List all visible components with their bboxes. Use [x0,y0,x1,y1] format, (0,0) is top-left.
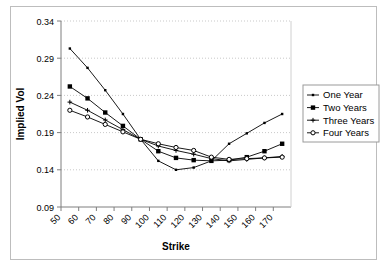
data-point [262,156,266,160]
x-tick-label: 80 [101,212,115,226]
data-point [156,142,160,146]
x-tick-label: 100 [133,212,151,230]
data-point [246,132,248,134]
x-tick-label: 160 [239,212,257,230]
data-point [68,84,72,88]
data-point [104,89,106,91]
data-point [103,110,107,114]
data-point [281,113,283,115]
legend-label: Three Years [323,115,374,126]
data-point [175,169,177,171]
legend-label: Four Years [323,127,369,138]
legend-swatch-marker [312,94,314,96]
x-tick-label: 120 [169,212,187,230]
data-point [228,143,230,145]
data-point [280,142,284,146]
data-point [69,47,71,49]
data-point [121,130,125,134]
data-point [174,145,178,149]
x-tick-label: 150 [222,212,240,230]
y-tick-label: 0.14 [36,165,54,175]
data-point [86,67,88,69]
y-axis-title: Implied Vol [15,87,26,140]
data-point [209,155,213,159]
data-point [245,157,249,161]
legend-label: Two Years [323,102,367,113]
x-axis-title: Strike [162,241,190,252]
data-point [191,158,195,162]
y-tick-label: 0.09 [36,203,54,213]
x-tick-label: 60 [66,212,80,226]
data-point [85,96,89,100]
implied-vol-chart: 0.090.140.190.240.290.345060708090100110… [0,0,388,274]
x-tick-label: 70 [84,212,98,226]
data-point [85,115,89,119]
y-tick-label: 0.34 [36,17,54,27]
x-tick-label: 50 [48,212,62,226]
series-four-years [68,108,285,161]
x-tick-label: 170 [257,212,275,230]
data-point [103,122,107,126]
legend-swatch-marker [311,131,315,135]
x-tick-label: 110 [151,212,168,229]
data-point [263,122,265,124]
x-tick-label: 140 [204,212,222,230]
data-point [227,157,231,161]
legend-swatch-marker [311,105,315,109]
x-tick-label: 130 [186,212,204,230]
data-point [280,155,284,159]
legend-label: One Year [323,89,363,100]
x-tick-label: 90 [119,212,133,226]
data-point [156,149,160,153]
y-tick-label: 0.19 [36,128,54,138]
data-point [68,108,72,112]
y-tick-label: 0.24 [36,91,54,101]
data-point [157,160,159,162]
series-three-years [68,100,285,163]
data-point [192,166,194,168]
y-tick-label: 0.29 [36,54,54,64]
data-point [262,149,266,153]
data-point [139,137,143,141]
chart-canvas: 0.090.140.190.240.290.345060708090100110… [0,0,388,274]
data-point [192,148,196,152]
data-point [122,113,124,115]
data-point [174,156,178,160]
